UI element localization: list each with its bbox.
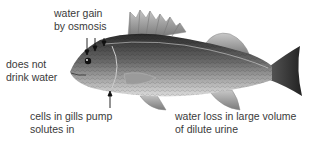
label-line: water gain: [54, 7, 107, 20]
label-line: does not: [6, 58, 57, 71]
label-line: solutes in: [30, 123, 112, 136]
label-line: by osmosis: [54, 20, 107, 33]
label-gills: cells in gills pump solutes in: [30, 110, 112, 135]
label-water-gain: water gain by osmosis: [54, 7, 107, 32]
tail-fin: [270, 46, 302, 96]
gill-arrow: [108, 91, 112, 108]
pelvic-fin: [140, 94, 166, 110]
label-urine: water loss in large volume of dilute uri…: [175, 110, 296, 135]
label-line: of dilute urine: [175, 123, 296, 136]
label-line: cells in gills pump: [30, 110, 112, 123]
label-no-drink: does not drink water: [6, 58, 57, 83]
label-line: drink water: [6, 71, 57, 84]
dorsal-fin-spiny: [128, 10, 186, 36]
anal-fin: [210, 90, 240, 110]
fish-eye: [85, 58, 91, 64]
label-line: water loss in large volume: [175, 110, 296, 123]
